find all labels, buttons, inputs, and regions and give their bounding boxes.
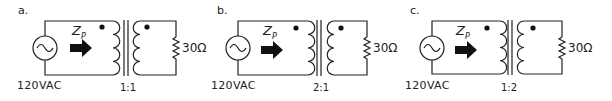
secondary-wire [140,21,176,75]
secondary-dot [530,25,535,30]
secondary-dot [144,24,149,29]
impedance-label: ZP [456,24,470,41]
resistor-icon [173,37,179,62]
secondary-coil [327,21,334,75]
secondary-coil [133,21,140,75]
circuit-c: c. ZP 30Ω 120VAC 1:2 [400,0,604,101]
circuit-b: b. ZP 30Ω 120VAC 2:1 [200,0,404,101]
primary-dot [99,24,104,29]
sine-wave [230,45,246,52]
circuit-a: a. ZP 30Ω 120VAC 1:1 [0,0,204,101]
secondary-wire [524,21,562,74]
source-voltage: 120VAC [405,80,450,91]
circuit-label: c. [410,5,420,16]
turns-ratio: 1:2 [501,83,517,93]
impedance-label: ZP [72,24,86,41]
primary-coil [500,21,507,74]
sine-wave [37,45,53,52]
impedance-subscript: P [272,32,277,41]
arrow-icon [70,39,92,57]
circuit-label: a. [18,5,28,16]
secondary-coil [517,21,524,74]
arrow-icon [261,41,283,59]
core-line [508,20,512,75]
impedance-subscript: P [465,32,470,41]
primary-dot [484,25,489,30]
impedance-label: ZP [263,24,277,41]
core-line [317,20,321,76]
core-line [124,20,128,76]
impedance-subscript: P [81,32,86,41]
primary-dot [293,25,298,30]
source-voltage: 120VAC [17,80,62,91]
resistor-icon [559,37,565,62]
resistor-icon [364,37,370,62]
circuit-label: b. [217,5,227,16]
impedance-symbol: Z [72,23,81,38]
turns-ratio: 2:1 [313,83,329,93]
turns-ratio: 1:1 [120,83,136,93]
secondary-dot [338,25,343,30]
impedance-symbol: Z [456,23,465,38]
impedance-symbol: Z [263,23,272,38]
primary-coil [308,21,315,75]
arrow-icon [455,41,477,59]
source-voltage: 120VAC [211,80,256,91]
sine-wave [424,45,440,52]
load-resistance: 30Ω [373,42,397,54]
primary-coil [113,21,120,75]
load-resistance: 30Ω [568,42,592,54]
